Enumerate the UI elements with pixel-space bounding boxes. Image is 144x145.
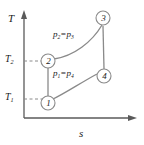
curve-upper-sub-b: 3: [71, 34, 74, 40]
curve-upper-sub-a: 2: [58, 34, 61, 40]
state-label-4: 4: [100, 72, 109, 81]
y-axis-label: T: [8, 13, 14, 24]
curve-lower-sub-b: 4: [71, 73, 74, 79]
curve-lower-p-a: p: [53, 68, 58, 78]
y-tick-label-t1: T1: [5, 92, 14, 102]
t-axis-arrowhead: [21, 10, 27, 19]
curve-label-upper-isobar: p2=p3: [53, 30, 74, 39]
y-tick-label-t2: T2: [5, 54, 14, 64]
s-axis-arrowhead: [128, 115, 137, 121]
y-tick-t2-sub: 2: [11, 58, 14, 65]
curve-upper-p-a: p: [53, 29, 58, 39]
y-tick-t1-base: T: [5, 91, 11, 102]
state-label-3: 3: [99, 14, 108, 23]
y-tick-t2-base: T: [5, 53, 11, 64]
process-3-4-isentropic: [103, 26, 104, 69]
curve-label-lower-isobar: p1=p4: [53, 69, 74, 78]
curve-lower-sub-a: 1: [58, 73, 61, 79]
x-axis-label: s: [79, 128, 83, 139]
state-label-1: 1: [44, 99, 53, 108]
y-tick-t1-sub: 1: [11, 96, 14, 103]
state-label-2: 2: [44, 57, 53, 66]
ts-diagram: T s T2 T1 p2=p3 p1=p4 1 2 3 4: [0, 0, 144, 145]
